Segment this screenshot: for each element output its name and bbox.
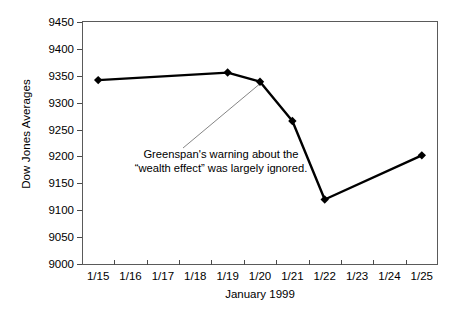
y-tick-label: 9300 [30,98,74,108]
y-tick-label: 9400 [30,44,74,54]
x-tick-mark [179,260,180,265]
data-point-marker [321,195,329,203]
x-tick-mark [373,260,374,265]
x-tick-label: 1/25 [399,270,445,282]
x-axis-title: January 1999 [82,288,438,300]
data-markers [94,68,426,203]
y-tick-label: 9000 [30,259,74,269]
data-point-marker [94,76,102,84]
y-tick-label: 9350 [30,71,74,81]
x-tick-mark [406,260,407,265]
x-tick-mark [147,260,148,265]
data-point-marker [418,151,426,159]
x-tick-mark [309,260,310,265]
x-tick-mark [276,260,277,265]
annotation-leader-line [183,84,260,148]
x-tick-mark [244,260,245,265]
y-tick-label: 9200 [30,151,74,161]
y-tick-label: 9050 [30,232,74,242]
chart-annotation: Greenspan's warning about the “wealth ef… [133,147,309,175]
data-line [98,73,422,200]
chart-container: Dow Jones Averages 945094009350930092509… [0,0,460,314]
y-tick-label: 9450 [30,17,74,27]
data-point-marker [223,68,231,76]
plot-area [82,21,438,265]
series-svg [83,22,437,264]
y-tick-label: 9250 [30,125,74,135]
x-tick-mark [341,260,342,265]
y-tick-label: 9150 [30,178,74,188]
y-tick-label: 9100 [30,205,74,215]
x-tick-mark [114,260,115,265]
x-tick-mark [211,260,212,265]
